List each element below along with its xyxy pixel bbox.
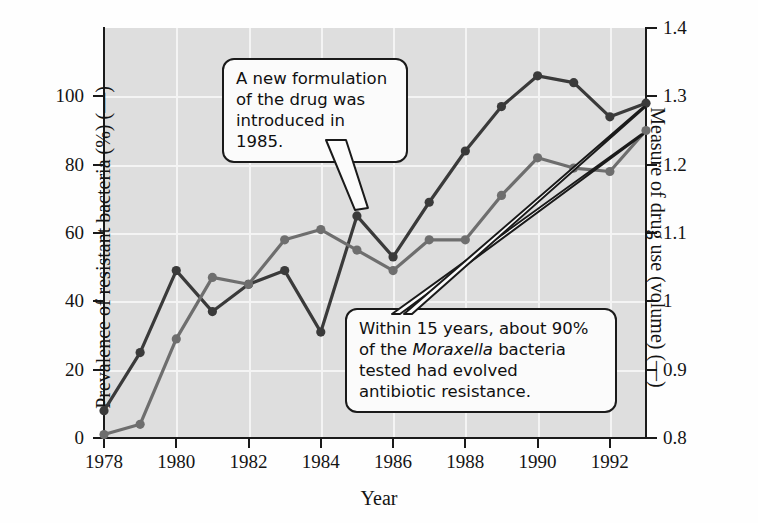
gridline-horizontal (104, 165, 646, 167)
left-axis-title: Prevalence of resistant bacteria (%) (—) (92, 38, 115, 458)
callout-resistance-species: Moraxella (412, 340, 492, 359)
callout-resistance-line1: Within 15 years, about 90% (359, 318, 604, 339)
callout-resistance-line3: tested had evolved (359, 360, 604, 381)
gridline-horizontal (104, 301, 646, 303)
x-axis-tick-label: 1992 (570, 452, 650, 471)
y-axis-tick-right (646, 27, 657, 29)
y-axis-tick-label-right: 1.4 (663, 18, 687, 37)
x-axis-tick (537, 438, 539, 448)
callout-resistance: Within 15 years, about 90% of the Moraxe… (345, 308, 617, 413)
y-axis-tick-label-left: 20 (65, 360, 84, 379)
x-axis-tick (320, 438, 322, 448)
x-axis-tick-label: 1982 (209, 452, 289, 471)
chart-figure: 0204060801000.80.911.11.21.31.4197819801… (0, 0, 758, 523)
callout-formulation-line2: of the drug was (236, 89, 395, 110)
x-axis-tick-label: 1984 (281, 452, 361, 471)
y-axis-tick-label-left: 60 (65, 223, 84, 242)
callout-resistance-line2-post: bacteria (493, 340, 566, 359)
x-axis-tick (609, 438, 611, 448)
callout-resistance-line2: of the Moraxella bacteria (359, 339, 604, 360)
x-axis-tick (248, 438, 250, 448)
y-axis-tick-label-left: 40 (65, 291, 84, 310)
right-axis-title: Measure of drug use (volume) (—) (646, 38, 669, 458)
x-axis-tick-label: 1986 (353, 452, 433, 471)
callout-formulation: A new formulation of the drug was introd… (222, 58, 408, 163)
x-axis-title: Year (0, 487, 758, 510)
callout-formulation-line1: A new formulation (236, 68, 395, 89)
x-axis-tick-label: 1980 (136, 452, 216, 471)
x-axis-tick (464, 438, 466, 448)
x-axis-tick-label: 1988 (425, 452, 505, 471)
y-axis-tick-label-left: 100 (56, 86, 85, 105)
bottom-axis-line (103, 437, 647, 439)
callout-formulation-line3: introduced in 1985. (236, 110, 395, 152)
y-axis-tick-label-left: 0 (75, 428, 85, 447)
callout-resistance-line4: antibiotic resistance. (359, 381, 604, 402)
x-axis-tick (392, 438, 394, 448)
callout-resistance-line2-pre: of the (359, 340, 412, 359)
x-axis-tick-label: 1990 (498, 452, 578, 471)
gridline-horizontal (104, 233, 646, 235)
x-axis-tick (175, 438, 177, 448)
y-axis-tick-label-left: 80 (65, 155, 84, 174)
